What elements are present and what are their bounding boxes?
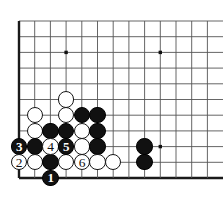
go-stone-black — [89, 123, 105, 139]
move-number-label: 5 — [63, 140, 69, 153]
go-stone-white — [74, 138, 90, 154]
go-stone-black-move-3: 3 — [11, 138, 27, 154]
star-point-hoshi-upper-left — [64, 51, 67, 54]
go-stone-black — [42, 123, 58, 139]
go-stone-white — [74, 123, 90, 139]
go-stone-black — [136, 138, 152, 154]
move-number-label: 6 — [79, 156, 85, 170]
star-point-hoshi-upper-right — [159, 51, 162, 54]
move-number-label: 3 — [16, 140, 22, 153]
move-number-label: 1 — [47, 171, 53, 184]
move-number-label: 4 — [47, 140, 53, 154]
go-stone-white — [27, 123, 43, 139]
go-stone-white-move-4: 4 — [42, 138, 58, 154]
go-stone-white — [58, 91, 74, 107]
go-stone-black — [89, 138, 105, 154]
go-stone-black-move-1: 1 — [42, 170, 58, 186]
go-board-grid — [0, 0, 223, 208]
move-number-label: 2 — [16, 156, 22, 170]
go-board-diagram: 345261 — [0, 0, 223, 208]
star-point-hoshi-lower-right — [159, 145, 162, 148]
go-stone-black — [89, 107, 105, 123]
go-stone-black — [42, 154, 58, 170]
go-stone-black — [27, 138, 43, 154]
go-stone-black-move-5: 5 — [58, 138, 74, 154]
go-stone-white — [89, 154, 105, 170]
